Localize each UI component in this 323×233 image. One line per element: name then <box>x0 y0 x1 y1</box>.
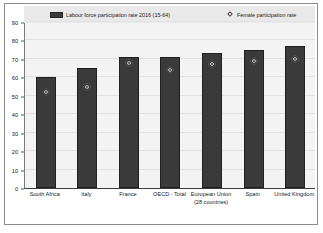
bar-slot <box>233 23 275 188</box>
plot-area <box>24 23 315 189</box>
y-axis-tick-label: 80 <box>12 38 18 44</box>
bar[interactable] <box>244 50 264 188</box>
y-axis-tick-label: 60 <box>12 75 18 81</box>
y-axis: 9080706050403020100 <box>0 23 24 190</box>
y-axis-tick-label: 10 <box>12 168 18 174</box>
female-rate-marker-center <box>45 91 47 93</box>
legend-label-labour-force: Labour force participation rate 2016 (15… <box>66 12 170 18</box>
y-axis-tick-label: 70 <box>12 57 18 63</box>
female-rate-marker-center <box>211 63 213 65</box>
bar-slot <box>191 23 233 188</box>
bar-slot <box>108 23 150 188</box>
legend-entry-labour-force: Labour force participation rate 2016 (15… <box>50 12 170 18</box>
y-axis-tick-label: 90 <box>12 20 18 26</box>
legend-label-female: Female participation rate <box>237 12 296 18</box>
legend-entry-female: Female participation rate <box>228 12 296 18</box>
bar[interactable] <box>119 57 139 188</box>
female-rate-marker-center <box>86 86 88 88</box>
female-rate-marker-center <box>169 69 171 71</box>
bar[interactable] <box>202 53 222 188</box>
bar-slot <box>25 23 67 188</box>
y-axis-tick-label: 0 <box>15 186 18 192</box>
bar[interactable] <box>285 46 305 188</box>
gridline <box>25 21 315 22</box>
chart-container: Labour force participation rate 2016 (15… <box>0 0 323 233</box>
female-rate-marker-center <box>253 60 255 62</box>
diamond-swatch-icon <box>228 12 234 18</box>
y-axis-tick-label: 20 <box>12 149 18 155</box>
y-axis-tick-label: 30 <box>12 131 18 137</box>
x-axis-labels: South AfricaItalyFranceOECD - TotalEurop… <box>24 191 315 231</box>
bar[interactable] <box>160 57 180 188</box>
female-rate-marker-center <box>294 58 296 60</box>
x-axis-label: United Kingdom <box>269 191 319 199</box>
bar-swatch-icon <box>50 12 63 18</box>
y-axis-tick-label: 40 <box>12 112 18 118</box>
bar-slot <box>150 23 192 188</box>
female-rate-marker-center <box>128 62 130 64</box>
y-axis-tick-label: 50 <box>12 94 18 100</box>
bar-slot <box>67 23 109 188</box>
bar-slot <box>274 23 316 188</box>
